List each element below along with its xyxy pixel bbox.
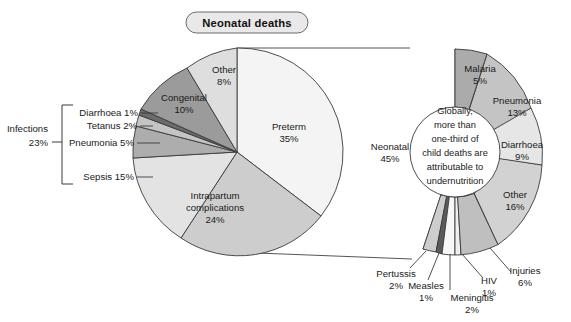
donut-bottom-callouts: Pertussis 2% Measles 1% Meningitis 2% HI…	[376, 248, 540, 315]
pie-label-intrapartum-2: complications	[186, 202, 244, 213]
donut-label-hiv: HIV	[481, 275, 498, 286]
leader-hiv	[462, 254, 483, 278]
pie-value-preterm: 35%	[279, 133, 299, 144]
donut-label-injuries: Injuries	[510, 265, 541, 276]
donut-value-pneumonia: 13%	[507, 107, 527, 118]
pie-value-other: 8%	[217, 76, 231, 87]
pie-label-congenital: Congenital	[161, 92, 207, 103]
donut-label-malaria: Malaria	[464, 63, 496, 74]
donut-center-line-4: child deaths are	[422, 148, 488, 158]
donut-label-measles: Measles	[408, 280, 444, 291]
donut-value-other: 16%	[505, 201, 525, 212]
donut-label-pneumonia: Pneumonia	[493, 95, 542, 106]
donut-center-line-2: more than	[434, 120, 476, 130]
neonatal-deaths-pie: Preterm 35% Intrapartum complications 24…	[133, 48, 343, 256]
donut-center-line-3: one-third of	[431, 134, 478, 144]
donut-value-neonatal: 45%	[380, 153, 400, 164]
pie-value-intrapartum: 24%	[205, 214, 225, 225]
pie-label-sepsis: Sepsis 15%	[83, 171, 134, 182]
leader-measles	[428, 253, 439, 280]
donut-value-pertussis: 2%	[389, 280, 403, 291]
pie-label-pneumonia: Pneumonia 5%	[69, 137, 135, 148]
pie-label-preterm: Preterm	[272, 121, 306, 132]
leader-pertussis	[410, 251, 426, 268]
bracket-value-infections: 23%	[29, 137, 49, 148]
pie-label-diarrhoea: Diarrhoea 1%	[79, 107, 138, 118]
donut-value-measles: 1%	[419, 292, 433, 303]
donut-center-line-5: attributable to	[427, 162, 483, 172]
chart-title-badge: Neonatal deaths	[186, 12, 308, 33]
donut-value-injuries: 6%	[518, 277, 532, 288]
donut-label-neonatal: Neonatal	[371, 141, 409, 152]
donut-center-line-6: undernutrition	[427, 176, 484, 186]
donut-value-diarrhoea: 9%	[515, 151, 529, 162]
donut-center-line-1: Globally,	[437, 106, 472, 116]
bracket-label-infections: Infections	[7, 123, 48, 134]
page-title: Neonatal deaths	[202, 17, 291, 29]
donut-value-malaria: 5%	[473, 75, 487, 86]
figure-root: Preterm 35% Intrapartum complications 24…	[0, 0, 571, 322]
donut-value-hiv: 1%	[482, 287, 496, 298]
donut-label-pertussis: Pertussis	[376, 268, 416, 279]
leader-injuries	[490, 248, 511, 272]
pie-label-tetanus: Tetanus 2%	[87, 120, 138, 131]
donut-value-meningitis: 2%	[465, 304, 479, 315]
child-deaths-donut: Globally, more than one-third of child d…	[371, 49, 544, 255]
chart-canvas: Preterm 35% Intrapartum complications 24…	[0, 0, 571, 322]
pie-label-other: Other	[212, 64, 237, 75]
donut-label-diarrhoea: Diarrhoea	[501, 139, 544, 150]
pie-label-intrapartum: Intrapartum	[190, 190, 239, 201]
donut-label-other: Other	[503, 189, 528, 200]
pie-value-congenital: 10%	[174, 104, 194, 115]
